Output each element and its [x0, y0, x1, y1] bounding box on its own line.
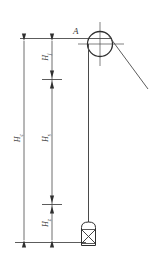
- arrowhead-hj-bottom: [50, 71, 54, 79]
- arrowhead-hc-top: [22, 34, 26, 42]
- dimension-subscript-hs: s: [46, 134, 52, 136]
- dimension-symbol-hz: H: [41, 221, 50, 227]
- dimension-label-lower-depth: Hz: [42, 210, 52, 236]
- inclined-rope-line: [109, 36, 149, 90]
- arrowhead-hc-bottom: [22, 240, 26, 248]
- skip-bucket-group: [82, 222, 96, 246]
- inclined-rope-group: [109, 36, 149, 90]
- dimension-label-total-height: Hc: [14, 125, 24, 151]
- dimension-subscript-hz: z: [46, 219, 52, 221]
- arrowhead-hz-bottom: [50, 240, 54, 248]
- pulley-point-label: A: [73, 27, 79, 36]
- dimension-symbol-hc: H: [13, 136, 22, 142]
- dimension-symbol-hs: H: [41, 136, 50, 142]
- sheave-wheel-group: [78, 22, 124, 66]
- arrowhead-hs-bottom: [50, 196, 54, 204]
- arrowhead-hs-top: [50, 81, 54, 89]
- dimension-label-hoisting-height: Hs: [42, 125, 52, 151]
- dimension-label-upper-overrun: Hj: [42, 44, 52, 70]
- dimension-subscript-hc: c: [18, 134, 24, 136]
- hoisting-system-diagram: A Hc Hj Hs Hz: [0, 0, 155, 261]
- arrowhead-hj-top: [50, 34, 54, 42]
- dimension-symbol-hj: H: [41, 55, 50, 61]
- dimension-subscript-hj: j: [46, 53, 52, 55]
